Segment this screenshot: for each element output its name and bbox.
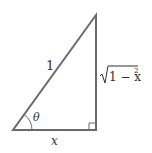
adjacent-label: x [51,134,58,148]
opposite-side-label: 1 − x 2 [100,66,141,84]
triangle-diagram: 1 1 − x 2 θ x [0,0,152,153]
exponent: 2 [134,67,138,75]
hypotenuse-label: 1 [46,58,54,73]
angle-arc [24,115,32,130]
right-triangle [13,15,96,130]
angle-label: θ [33,111,40,124]
right-angle-marker [89,123,96,130]
